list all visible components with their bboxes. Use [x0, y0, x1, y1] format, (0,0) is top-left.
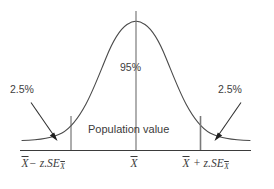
mean-axis-label: X [130, 158, 138, 170]
upper-bound-mean-symbol: X [182, 157, 190, 169]
confidence-level-label: 95% [120, 62, 141, 73]
upper-bound-se-symbol: SE [211, 157, 224, 169]
lower-bound-se-subscript: X [60, 162, 66, 171]
left-tail-arrow [31, 103, 58, 142]
left-tail-percentage-label: 2.5% [10, 84, 34, 95]
right-tail-arrow [215, 103, 242, 142]
upper-bound-axis-label: X + z.SEX [182, 158, 229, 170]
right-tail-percentage-label: 2.5% [218, 84, 242, 95]
lower-bound-operator: − [29, 157, 37, 169]
normal-distribution-diagram: 2.5% 2.5% 95% Population value X− z.SEX … [0, 0, 274, 189]
lower-bound-axis-label: X− z.SEX [21, 158, 65, 170]
mean-symbol: X [130, 157, 138, 169]
lower-bound-mean-symbol: X [21, 157, 29, 169]
population-value-label: Population value [88, 124, 169, 135]
upper-bound-operator: + [193, 157, 201, 169]
lower-bound-se-symbol: SE [47, 157, 60, 169]
upper-bound-se-subscript: X [224, 162, 230, 171]
